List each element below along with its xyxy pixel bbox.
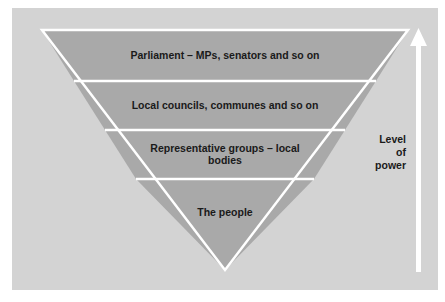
level-label-local-councils: Local councils, communes and so on	[100, 99, 350, 111]
axis-label-level-of-power: Level of power	[360, 133, 406, 172]
axis-label-line3: power	[360, 159, 406, 172]
level-label-the-people: The people	[170, 206, 280, 218]
arrow-up-icon	[410, 28, 427, 272]
level-label-representative-groups: Representative groups – local bodies	[140, 142, 310, 166]
band-the-people	[136, 179, 314, 270]
axis-label-line2: of	[360, 146, 406, 159]
level-label-parliament: Parliament – MPs, senators and so on	[100, 49, 350, 61]
axis-label-line1: Level	[360, 133, 406, 146]
